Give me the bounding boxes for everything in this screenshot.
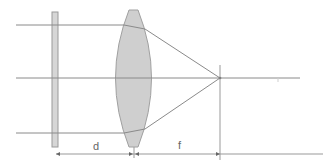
label-d: d (93, 140, 99, 152)
plate (52, 12, 58, 147)
arrow-d-right (129, 152, 133, 156)
label-f: f (178, 139, 182, 151)
arrow-f-left (135, 152, 139, 156)
arrow-f-right (216, 152, 220, 156)
arrow-d-left (56, 152, 60, 156)
optics-diagram: d f (0, 0, 323, 168)
